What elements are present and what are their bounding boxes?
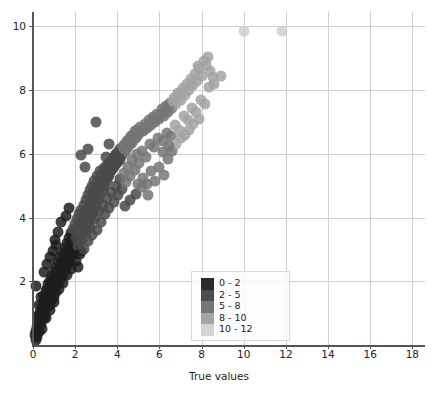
gridline-horizontal <box>33 90 425 91</box>
x-tick-label: 12 <box>266 348 306 360</box>
data-point <box>36 324 47 335</box>
legend-entry-label: 10 - 12 <box>219 323 285 335</box>
y-tick-label: 6 <box>0 148 26 160</box>
x-tick-mark <box>159 346 160 349</box>
data-point <box>91 116 102 127</box>
gridline-horizontal <box>33 154 425 155</box>
y-tick-label: 4 <box>0 212 26 224</box>
data-point <box>176 86 187 97</box>
x-tick-label: 2 <box>55 348 95 360</box>
data-point <box>157 147 168 158</box>
legend-labels: 0 - 22 - 55 - 88 - 1010 - 12 <box>219 277 285 337</box>
x-tick-label: 8 <box>182 348 222 360</box>
data-point <box>51 239 62 250</box>
data-point <box>193 61 204 72</box>
legend-entry-label: 2 - 5 <box>219 289 285 301</box>
x-tick-label: 10 <box>224 348 264 360</box>
legend-entry-label: 5 - 8 <box>219 300 285 312</box>
x-tick-mark <box>412 346 413 349</box>
data-point <box>79 161 90 172</box>
x-tick-mark <box>117 346 118 349</box>
x-axis-label: True values <box>0 370 438 382</box>
y-tick-label: 2 <box>0 275 26 287</box>
y-tick-label: 8 <box>0 84 26 96</box>
legend: 0 - 22 - 55 - 88 - 1010 - 12 <box>191 271 290 341</box>
y-tick-mark <box>29 218 32 219</box>
data-point <box>103 139 114 150</box>
legend-swatch <box>201 301 214 313</box>
x-axis-spine <box>32 345 425 347</box>
data-point <box>41 312 52 323</box>
y-tick-mark <box>29 154 32 155</box>
x-tick-label: 16 <box>350 348 390 360</box>
data-point <box>63 202 74 213</box>
data-point <box>202 51 213 62</box>
y-tick-mark <box>29 281 32 282</box>
x-tick-mark <box>202 346 203 349</box>
data-point <box>158 169 169 180</box>
y-tick-label: 10 <box>0 20 26 32</box>
gridline-vertical <box>412 12 413 345</box>
x-tick-label: 0 <box>13 348 53 360</box>
data-point <box>276 26 287 37</box>
legend-swatch <box>201 313 214 325</box>
x-tick-mark <box>75 346 76 349</box>
legend-swatch <box>201 278 214 290</box>
data-point <box>119 201 130 212</box>
data-point <box>100 151 111 162</box>
x-tick-mark <box>286 346 287 349</box>
legend-colorbar <box>201 278 214 336</box>
data-point <box>194 113 205 124</box>
gridline-horizontal <box>33 26 425 27</box>
legend-entry-label: 8 - 10 <box>219 312 285 324</box>
y-tick-mark <box>29 26 32 27</box>
scatter-plot-figure: 024681012141618 246810 True values 0 - 2… <box>0 0 438 395</box>
legend-entry-label: 0 - 2 <box>219 277 285 289</box>
x-tick-label: 4 <box>97 348 137 360</box>
data-point <box>82 144 93 155</box>
legend-swatch <box>201 324 214 336</box>
x-tick-label: 6 <box>139 348 179 360</box>
data-point <box>140 151 151 162</box>
x-tick-mark <box>33 346 34 349</box>
y-axis-spine <box>32 12 34 346</box>
data-point <box>215 70 226 81</box>
data-point <box>199 99 210 110</box>
x-tick-label: 14 <box>308 348 348 360</box>
gridline-vertical <box>75 12 76 345</box>
gridline-vertical <box>370 12 371 345</box>
gridline-vertical <box>328 12 329 345</box>
y-tick-mark <box>29 90 32 91</box>
x-tick-mark <box>370 346 371 349</box>
x-tick-mark <box>328 346 329 349</box>
data-point <box>142 190 153 201</box>
x-tick-label: 18 <box>392 348 432 360</box>
x-tick-mark <box>244 346 245 349</box>
legend-swatch <box>201 290 214 302</box>
data-point <box>238 26 249 37</box>
